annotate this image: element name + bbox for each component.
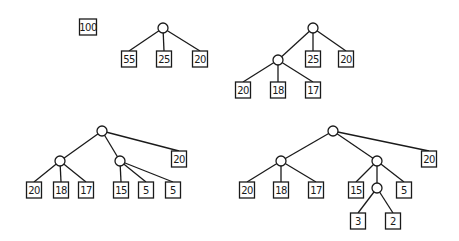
leaf-node: 100 [79, 19, 97, 35]
leaf-node: 5 [397, 182, 412, 198]
internal-node [273, 55, 283, 65]
internal-node [276, 156, 286, 166]
leaf-label: 20 [194, 54, 206, 65]
leaf-label: 5 [170, 185, 176, 196]
tree-t4: 202018171555 [27, 126, 187, 198]
leaf-label: 15 [115, 185, 127, 196]
internal-node [97, 126, 107, 136]
tree-diagram-canvas: 1005525202520201817202018171555202018171… [0, 0, 459, 241]
leaf-label: 20 [28, 185, 40, 196]
leaf-label: 20 [340, 54, 352, 65]
leaf-label: 3 [355, 216, 361, 227]
leaf-label: 20 [173, 154, 185, 165]
internal-node [308, 23, 318, 33]
leaf-node: 20 [240, 182, 255, 198]
tree-edge [129, 28, 163, 51]
leaf-label: 20 [241, 185, 253, 196]
leaf-node: 20 [27, 182, 42, 198]
leaf-label: 17 [80, 185, 92, 196]
internal-node [115, 156, 125, 166]
tree-edge [120, 161, 173, 182]
leaf-node: 55 [122, 51, 137, 67]
leaf-label: 17 [307, 85, 319, 96]
tree-t2: 552520 [122, 23, 208, 67]
edges [34, 131, 179, 182]
leaf-node: 17 [79, 182, 94, 198]
tree-edge [313, 28, 346, 51]
leaf-node: 15 [114, 182, 129, 198]
tree-edge [60, 131, 102, 161]
leaf-label: 18 [275, 185, 287, 196]
leaf-node: 2 [386, 213, 401, 229]
leaf-node: 5 [166, 182, 181, 198]
leaf-label: 17 [310, 185, 322, 196]
leaf-label: 20 [237, 85, 249, 96]
leaf-label: 15 [350, 185, 362, 196]
leaf-node: 20 [236, 82, 251, 98]
tree-edge [247, 161, 281, 182]
leaf-label: 25 [307, 54, 319, 65]
tree-t1: 100 [79, 19, 97, 35]
tree-edge [102, 131, 179, 151]
leaf-label: 100 [79, 22, 97, 33]
leaf-node: 3 [351, 213, 366, 229]
leaf-node: 18 [274, 182, 289, 198]
leaf-node: 15 [349, 182, 364, 198]
internal-node [158, 23, 168, 33]
internal-node [372, 183, 382, 193]
tree-edge [163, 28, 200, 51]
leaf-node: 20 [422, 151, 437, 167]
tree-t3: 2520201817 [236, 23, 354, 98]
edges [247, 131, 429, 213]
leaf-node: 20 [172, 151, 187, 167]
leaf-node: 25 [306, 51, 321, 67]
leaf-node: 17 [309, 182, 324, 198]
leaf-node: 20 [339, 51, 354, 67]
leaf-node: 25 [157, 51, 172, 67]
internal-node [55, 156, 65, 166]
internal-node [372, 156, 382, 166]
leaf-label: 18 [55, 185, 67, 196]
tree-edge [281, 161, 316, 182]
internal-node [328, 126, 338, 136]
leaf-node: 5 [139, 182, 154, 198]
leaf-label: 2 [390, 216, 396, 227]
edges [243, 28, 346, 82]
leaf-label: 5 [143, 185, 149, 196]
leaf-label: 18 [272, 85, 284, 96]
leaf-label: 20 [423, 154, 435, 165]
leaf-node: 18 [271, 82, 286, 98]
leaf-node: 18 [54, 182, 69, 198]
leaf-label: 5 [401, 185, 407, 196]
leaf-node: 20 [193, 51, 208, 67]
tree-edge [281, 131, 333, 161]
leaf-node: 17 [306, 82, 321, 98]
tree-edge [243, 60, 278, 82]
leaf-label: 25 [158, 54, 170, 65]
tree-t5: 2020181715532 [240, 126, 437, 229]
leaf-label: 55 [123, 54, 135, 65]
